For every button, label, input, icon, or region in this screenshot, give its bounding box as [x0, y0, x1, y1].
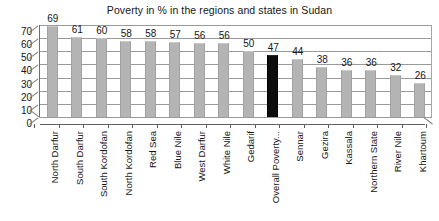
bar[interactable]	[365, 70, 376, 117]
category-label: Red Sea	[148, 131, 158, 168]
bar-column[interactable]: 56	[218, 25, 229, 117]
category-label: North Darfur	[50, 131, 60, 183]
bar-column[interactable]: 58	[145, 25, 156, 117]
bar-column[interactable]: 50	[243, 25, 254, 117]
gridline	[40, 117, 432, 118]
y-axis-line	[39, 25, 40, 117]
bar-value-label: 56	[211, 31, 237, 41]
x-axis-tick	[255, 124, 256, 128]
plot-area: 69616058585756565047443836363226	[40, 25, 432, 117]
bar[interactable]	[169, 42, 180, 117]
bar-value-label: 57	[162, 30, 188, 40]
bar-column[interactable]: 44	[292, 25, 303, 117]
bar[interactable]	[390, 75, 401, 117]
x-axis-tick	[132, 124, 133, 128]
bar-column[interactable]: 60	[96, 25, 107, 117]
category-label: Gezira	[320, 131, 330, 159]
y-axis-tick-labels: 706050403020100	[0, 0, 32, 221]
x-axis-tick	[304, 124, 305, 128]
bar-column[interactable]: 36	[341, 25, 352, 117]
bar[interactable]	[145, 41, 156, 117]
bar-value-label: 44	[285, 47, 311, 57]
x-axis-tick	[83, 124, 84, 128]
x-axis-tick	[108, 124, 109, 128]
category-label: River Nile	[393, 131, 403, 172]
plot-right-wall	[431, 25, 432, 117]
category-label: South Darfur	[75, 131, 85, 185]
bar-column[interactable]: 61	[71, 25, 82, 117]
bar[interactable]	[71, 37, 82, 117]
category-label: Kassala	[344, 131, 354, 165]
bar[interactable]	[194, 43, 205, 117]
bar-value-label: 61	[64, 25, 90, 35]
x-axis-tick	[34, 124, 35, 128]
bar[interactable]	[292, 59, 303, 117]
bar-value-label: 47	[260, 43, 286, 53]
bar-value-label: 50	[236, 39, 262, 49]
bar-column[interactable]: 26	[414, 25, 425, 117]
bar[interactable]	[316, 67, 327, 117]
bar-value-label: 36	[358, 58, 384, 68]
bar-column[interactable]: 38	[316, 25, 327, 117]
x-axis-tick	[181, 124, 182, 128]
bar-column[interactable]: 57	[169, 25, 180, 117]
x-axis-tick	[328, 124, 329, 128]
bar-value-label: 60	[89, 26, 115, 36]
category-label: West Darfur	[197, 131, 207, 182]
bar[interactable]	[96, 38, 107, 117]
poverty-bar-chart: Poverty in % in the regions and states i…	[0, 0, 439, 221]
bar-column[interactable]: 69	[47, 25, 58, 117]
bar-column[interactable]: 32	[390, 25, 401, 117]
category-label: South Kordofan	[99, 131, 109, 197]
category-label: White Nile	[222, 131, 232, 174]
category-label: Blue Nile	[173, 131, 183, 169]
bar-value-label: 36	[334, 58, 360, 68]
x-axis-tick	[59, 124, 60, 128]
category-label: Overall Poverty...	[271, 131, 281, 203]
bar[interactable]	[341, 70, 352, 117]
category-label: Gedarif	[246, 131, 256, 162]
x-axis-tick	[157, 124, 158, 128]
bar-value-label: 38	[309, 55, 335, 65]
bar[interactable]	[47, 26, 58, 117]
bar-value-label: 58	[113, 29, 139, 39]
bar-value-label: 56	[187, 31, 213, 41]
x-axis-tick	[377, 124, 378, 128]
bar[interactable]	[414, 83, 425, 117]
category-label: Northern State	[369, 131, 379, 193]
bar[interactable]	[243, 51, 254, 117]
bar[interactable]	[267, 55, 278, 117]
category-label: North Kordofan	[124, 131, 134, 195]
chart-title: Poverty in % in the regions and states i…	[0, 4, 439, 16]
bar[interactable]	[120, 41, 131, 117]
bar-column[interactable]: 47	[267, 25, 278, 117]
x-axis-line	[40, 124, 425, 125]
bar-column[interactable]: 36	[365, 25, 376, 117]
x-axis-tick	[279, 124, 280, 128]
bar-value-label: 69	[40, 14, 66, 24]
bar-value-label: 32	[383, 63, 409, 73]
category-label: Sennar	[295, 131, 305, 162]
bar-column[interactable]: 58	[120, 25, 131, 117]
x-axis-tick	[206, 124, 207, 128]
x-axis-tick	[426, 124, 427, 128]
bar-column[interactable]: 56	[194, 25, 205, 117]
x-axis-tick	[353, 124, 354, 128]
bar[interactable]	[218, 43, 229, 117]
bar-value-label: 26	[407, 71, 433, 81]
x-axis-tick	[402, 124, 403, 128]
category-label: Khartoum	[418, 131, 428, 172]
x-axis-tick	[230, 124, 231, 128]
bar-value-label: 58	[138, 29, 164, 39]
